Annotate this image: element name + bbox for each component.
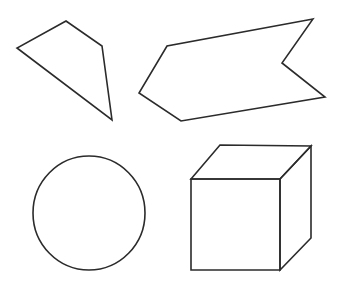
shapes-canvas bbox=[0, 0, 339, 287]
canvas-background bbox=[0, 0, 339, 287]
